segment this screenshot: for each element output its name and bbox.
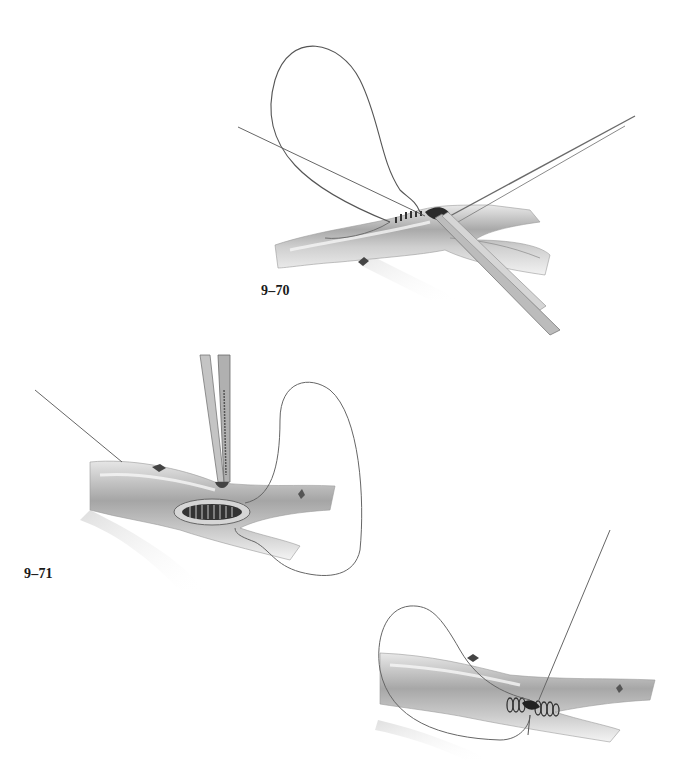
figure-9-70 (230, 0, 650, 350)
figure-9-72 (360, 520, 670, 760)
book-page: 9–70 (0, 0, 690, 784)
vessel-suture-illustration-1 (230, 0, 650, 350)
figure-label-9-71: 9–71 (24, 566, 53, 582)
figure-label-9-70: 9–70 (261, 283, 290, 299)
vessel-suture-illustration-2 (30, 350, 370, 590)
vessel-suture-illustration-3 (360, 520, 670, 760)
figure-9-71 (30, 350, 370, 590)
